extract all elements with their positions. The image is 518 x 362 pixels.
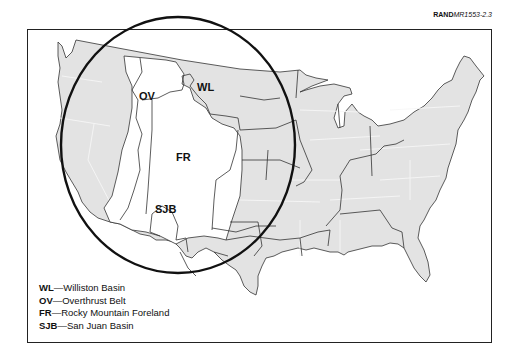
legend-item: FR—Rocky Mountain Foreland (39, 307, 169, 320)
legend-item: OV—Overthrust Belt (39, 295, 169, 308)
legend-item: WL—Williston Basin (39, 282, 169, 295)
label-fr: FR (176, 151, 191, 163)
legend-item: SJB—San Juan Basin (39, 320, 169, 333)
label-wl: WL (197, 81, 214, 93)
label-sjb: SJB (155, 203, 176, 215)
label-ov: OV (139, 90, 156, 102)
map-legend: WL—Williston Basin OV—Overthrust Belt FR… (39, 282, 169, 332)
